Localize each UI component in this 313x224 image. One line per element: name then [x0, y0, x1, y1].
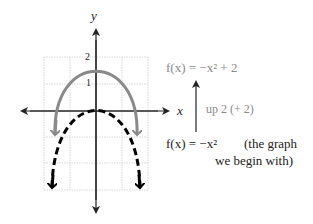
base-note-line1: (the graph: [244, 136, 297, 152]
shifted-function-label: f(x) = −x² + 2: [166, 60, 237, 76]
graph-canvas: [0, 0, 313, 224]
shift-note: up 2 (+ 2): [206, 102, 254, 117]
y-axis-label: y: [91, 8, 97, 24]
base-note-line2: we begin with): [215, 153, 293, 169]
x-axis-label: x: [177, 103, 183, 119]
base-function-label: f(x) = −x²: [166, 136, 217, 152]
tick-label-2: 2: [85, 51, 90, 62]
shifted-parabola-left-arrow: [55, 120, 56, 135]
tick-label-1: 1: [86, 77, 91, 88]
